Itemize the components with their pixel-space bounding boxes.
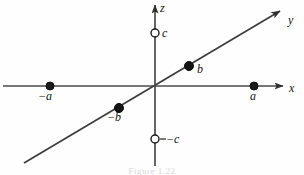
figure-caption: Figure 1.22: [0, 166, 304, 175]
z-axis-label: z: [160, 2, 165, 14]
point-marker-b: [185, 62, 194, 71]
point-label-b: b: [197, 63, 203, 75]
y-axis-label: y: [288, 14, 293, 26]
axes-diagram: [0, 0, 304, 175]
point-label-a: a: [250, 90, 256, 102]
figure-root: x y z −a a b −b c −c Figure 1.22: [0, 0, 304, 175]
point-marker-c: [151, 29, 159, 37]
point-label-c: c: [162, 27, 167, 39]
point-marker-minus-c: [151, 135, 159, 143]
point-label-minus-a: −a: [38, 90, 52, 102]
point-label-minus-c: −c: [166, 133, 179, 145]
point-label-minus-b: −b: [107, 111, 121, 123]
x-axis-label: x: [289, 82, 294, 94]
